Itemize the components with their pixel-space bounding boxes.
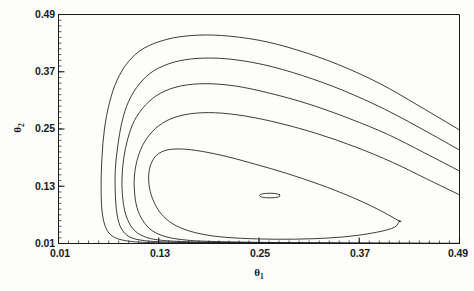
y-tick-label-2: 0.25 bbox=[35, 122, 55, 134]
contour-curve-4 bbox=[134, 113, 459, 244]
contour-curve-3 bbox=[122, 84, 460, 244]
y-tick-label-4: 0.49 bbox=[35, 8, 55, 20]
y-tick-label-3: 0.37 bbox=[35, 65, 55, 77]
y-axis-title: θ2 bbox=[11, 123, 26, 133]
x-tick-label-2: 0.25 bbox=[250, 247, 270, 259]
y-axis-title-subscript: 2 bbox=[17, 123, 26, 127]
y-tick-label-0: 0.01 bbox=[35, 237, 55, 249]
contour-curve-6 bbox=[260, 193, 280, 198]
y-tick-label-1: 0.13 bbox=[35, 180, 55, 192]
y-axis-title-symbol: θ bbox=[11, 127, 23, 133]
contour-plot-canvas bbox=[0, 0, 474, 291]
contour-curves-group bbox=[101, 35, 459, 243]
x-axis-title: θ1 bbox=[254, 266, 264, 281]
x-tick-label-4: 0.49 bbox=[448, 247, 468, 259]
contour-plot-figure: 0.01 0.13 0.25 0.37 0.49 0.01 0.13 0.25 … bbox=[0, 0, 474, 291]
x-tick-label-3: 0.37 bbox=[350, 247, 370, 259]
x-tick-label-1: 0.13 bbox=[150, 247, 170, 259]
contour-curve-5 bbox=[149, 149, 402, 239]
x-axis-title-subscript: 1 bbox=[260, 272, 264, 281]
contour-curve-2 bbox=[115, 58, 459, 243]
axis-frame-group bbox=[59, 15, 460, 244]
contour-curve-1 bbox=[101, 35, 459, 243]
